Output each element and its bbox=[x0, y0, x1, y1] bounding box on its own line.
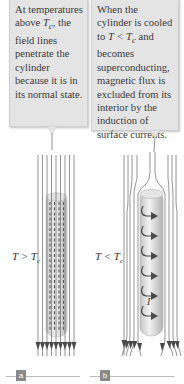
callout-pointer-a bbox=[47, 126, 57, 150]
panel-a-letter: a bbox=[16, 370, 26, 381]
panel-a-arrowheads bbox=[36, 342, 77, 350]
panel-b-temperature-label: T < Tc bbox=[95, 250, 123, 265]
panel-a-label-symbol: T > T bbox=[12, 250, 37, 262]
panel-a-label-subscript: c bbox=[37, 257, 40, 265]
current-label: I bbox=[146, 296, 151, 307]
callout-pointer-b bbox=[150, 130, 160, 152]
panel-a-rule-right bbox=[26, 376, 80, 377]
panel-b-rule-left bbox=[90, 376, 100, 377]
panel-b-letter: b bbox=[100, 370, 110, 381]
panel-a-rule-left bbox=[6, 376, 16, 377]
panel-a-field-lines bbox=[38, 155, 74, 356]
panel-b-rule-right bbox=[110, 376, 174, 377]
diagram-canvas: I bbox=[0, 0, 184, 384]
panel-b-label-subscript: c bbox=[120, 257, 123, 265]
panel-b-label-symbol: T < T bbox=[95, 250, 120, 262]
panel-a-temperature-label: T > Tc bbox=[12, 250, 40, 265]
